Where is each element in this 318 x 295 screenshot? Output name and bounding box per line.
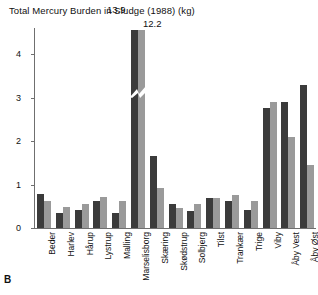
category-label: Hårup [86, 232, 95, 255]
bar-group [263, 102, 277, 228]
bar-series2 [138, 30, 145, 228]
bar-series2 [157, 188, 164, 228]
bar-series2 [213, 198, 220, 228]
bar-series2 [270, 102, 277, 228]
y-tick-0 [31, 228, 35, 229]
bar-series1 [150, 156, 157, 228]
category-label: Harlev [67, 232, 76, 257]
bar-series1 [300, 85, 307, 228]
bar-series1 [37, 194, 44, 228]
bar-series2 [63, 207, 70, 228]
value-label-13.9: 13.9 [107, 4, 126, 15]
category-label: Viby [274, 232, 283, 248]
bar-series1 [93, 201, 100, 228]
y-tick-label-0: 0 [16, 224, 25, 233]
bar-series2 [100, 197, 107, 228]
bar-series1 [187, 211, 194, 228]
panel-letter: B [4, 274, 11, 285]
bar-series2 [307, 165, 314, 228]
category-label: Skæring [161, 232, 170, 264]
bar-series2 [251, 201, 258, 228]
bar-group [150, 156, 164, 228]
bar-group [75, 204, 89, 228]
category-label: Tilst [217, 232, 226, 247]
bar-group [131, 30, 145, 228]
category-label: Trige [255, 232, 264, 251]
category-label: Åby Vest [292, 232, 301, 266]
category-label: Trankær [236, 232, 245, 264]
bar-group [206, 198, 220, 228]
category-label: Åby Øst [311, 232, 318, 262]
bar-series2 [119, 201, 126, 228]
bar-series1 [263, 108, 270, 228]
chart-title: Total Mercury Burden in Sludge (1988) (k… [9, 5, 195, 16]
category-label: Lystrup [104, 232, 113, 260]
bar-series1 [131, 30, 138, 228]
category-label: Skødstrup [180, 232, 189, 271]
bar-series1 [244, 210, 251, 228]
y-tick-label-4: 4 [16, 50, 25, 59]
bar-series2 [194, 204, 201, 228]
bar-series2 [44, 201, 51, 228]
figure-panel: Total Mercury Burden in Sludge (1988) (k… [0, 0, 318, 295]
bar-series1 [56, 213, 63, 228]
bar-group [169, 204, 183, 228]
bar-group [93, 197, 107, 228]
plot-area: 01234 13.912.2 BederHarlevHårupLystrupMa… [34, 28, 316, 228]
x-axis-line [34, 228, 316, 229]
bar-series2 [176, 208, 183, 228]
bar-series1 [112, 213, 119, 228]
category-label: Marselisborg [142, 232, 151, 281]
bar-series1 [75, 210, 82, 228]
bar-group [225, 195, 239, 228]
bar-series-container [34, 28, 316, 228]
category-label: Beder [48, 232, 57, 255]
y-tick-label-1: 1 [16, 180, 25, 189]
bar-group [187, 204, 201, 228]
bar-group [300, 85, 314, 228]
bar-group [244, 201, 258, 228]
bar-series1 [169, 204, 176, 228]
bar-group [37, 194, 51, 228]
category-label: Malling [123, 232, 132, 259]
category-label: Solbjerg [198, 232, 207, 263]
bar-series2 [232, 195, 239, 228]
bar-series1 [206, 198, 213, 228]
value-label-12.2: 12.2 [143, 18, 162, 29]
bar-group [281, 102, 295, 228]
bar-series1 [225, 201, 232, 228]
bar-series2 [288, 137, 295, 228]
bar-group [56, 207, 70, 228]
bar-series1 [281, 102, 288, 228]
y-tick-label-3: 3 [16, 93, 25, 102]
bar-series2 [82, 204, 89, 228]
bar-group [112, 201, 126, 228]
y-tick-label-2: 2 [16, 137, 25, 146]
